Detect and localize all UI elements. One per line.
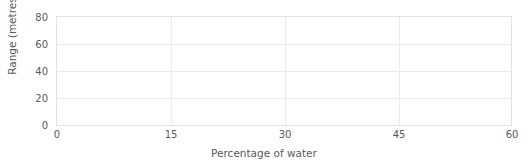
x-tick-label: 15 [151,129,191,140]
y-tick-label: 20 [0,93,48,104]
x-axis-label: Percentage of water [0,147,528,159]
y-tick-label: 60 [0,39,48,50]
x-tick-label: 30 [265,129,305,140]
y-tick-label: 80 [0,12,48,23]
data-series-layer [57,17,513,127]
x-tick-label: 0 [37,129,77,140]
y-tick-label: 40 [0,66,48,77]
x-axis-tick-labels: 0 15 30 45 60 [0,129,528,143]
x-tick-label: 60 [492,129,528,140]
plot-area [56,16,512,126]
x-tick-label: 45 [379,129,419,140]
chart-title: Water Bottle Rockets [0,0,528,3]
chart-container: Water Bottle Rockets Range (metres) 80 6… [0,0,528,167]
